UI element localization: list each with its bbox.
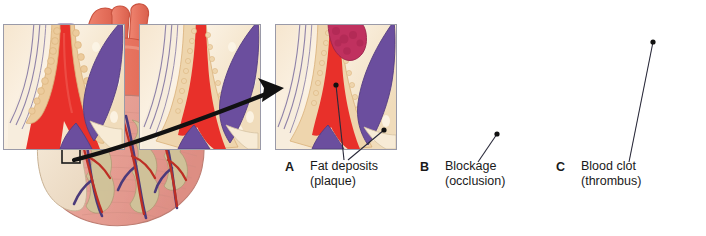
label-b-text: Blockage (occlusion): [445, 159, 505, 188]
label-a-text: Fat deposits (plaque): [310, 159, 378, 188]
label-c-letter: C: [556, 160, 565, 174]
panel-b-leader-lines: [478, 134, 497, 162]
coronary-artery-disease-figure: A Fat deposits (plaque) B Blockage (occl…: [0, 0, 706, 236]
label-c-line2: (thrombus): [581, 174, 641, 189]
label-c-line1: Blood clot: [581, 159, 636, 173]
label-a-line2: (plaque): [310, 174, 378, 189]
panel-b-blockage: [139, 24, 261, 150]
label-a-line1: Fat deposits: [310, 159, 378, 173]
label-a-letter: A: [285, 160, 294, 174]
label-b-letter: B: [420, 160, 429, 174]
label-c-text: Blood clot (thrombus): [581, 159, 641, 188]
label-b-line1: Blockage: [445, 159, 496, 173]
label-b-line2: (occlusion): [445, 174, 505, 189]
panel-c-pointer-dot: [650, 39, 655, 44]
panel-c-blood-clot: [275, 24, 397, 150]
panel-a-fat-deposits: [3, 24, 125, 150]
panel-b-pointer-dot: [494, 131, 499, 136]
panel-c-leader-lines: [629, 42, 653, 162]
